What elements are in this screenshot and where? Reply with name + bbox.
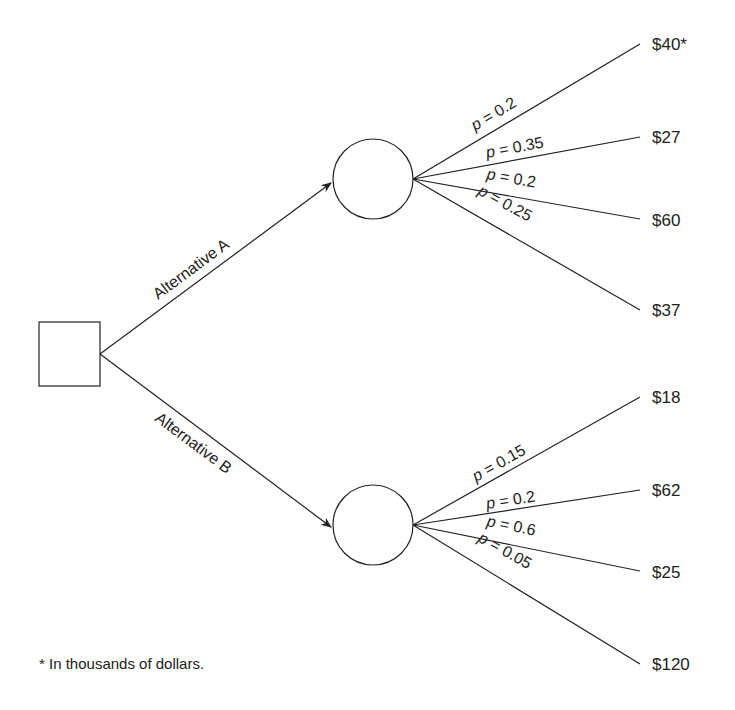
- payoff-b-1: $18: [652, 388, 680, 407]
- footnote: * In thousands of dollars.: [39, 655, 204, 672]
- payoff-a-3: $60: [652, 211, 680, 230]
- outcome-branch-a-1: [413, 44, 640, 179]
- chance-node-a: [333, 139, 413, 219]
- payoff-b-3: $25: [652, 563, 680, 582]
- probability-label-a-1: p = 0.2: [467, 94, 519, 134]
- alternative-a-label: Alternative A: [150, 235, 233, 302]
- payoff-b-2: $62: [652, 481, 680, 500]
- payoff-b-4: $120: [652, 655, 690, 674]
- payoff-a-1: $40*: [652, 35, 687, 54]
- alternative-b-label: Alternative B: [152, 409, 235, 477]
- chance-node-b: [333, 485, 413, 565]
- branch-alternative-a: [100, 183, 331, 354]
- outcome-branch-b-4: [413, 525, 640, 664]
- probability-label-b-2: p = 0.2: [484, 488, 536, 513]
- decision-node-square: [39, 322, 100, 386]
- decision-tree-diagram: Alternative A Alternative B p = 0.2 p = …: [0, 0, 735, 710]
- branch-alternative-b: [100, 354, 331, 527]
- payoff-a-2: $27: [652, 128, 680, 147]
- probability-label-b-1: p = 0.15: [468, 441, 528, 485]
- payoff-a-4: $37: [652, 301, 680, 320]
- probability-label-a-2: p = 0.35: [483, 134, 544, 162]
